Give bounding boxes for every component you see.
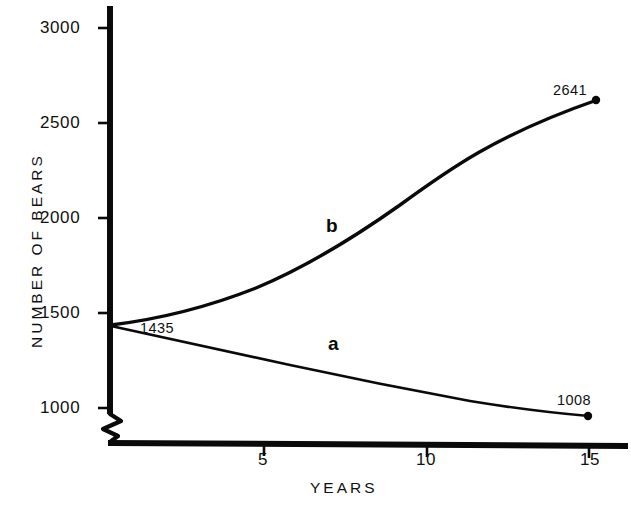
value-label-origin: 1435 (140, 320, 174, 336)
x-tick-label-10: 10 (416, 450, 436, 470)
x-axis-line (108, 443, 628, 446)
series-curve-a (111, 326, 589, 416)
bear-population-chart: 3000 2500 2000 1500 1000 5 10 15 NUMBER … (0, 0, 631, 508)
value-label-upper-end: 2641 (553, 82, 587, 98)
y-tick-label-2500: 2500 (40, 113, 80, 133)
y-tick-label-1500: 1500 (40, 303, 80, 323)
y-axis-title: NUMBER OF BEARS (28, 153, 46, 348)
curve-label-b: b (326, 215, 338, 237)
chart-plot-area (0, 0, 631, 508)
curve-label-a: a (328, 333, 339, 355)
x-axis-title: YEARS (310, 479, 378, 497)
axis-break-symbol (103, 414, 121, 442)
series-curve-b (111, 100, 597, 325)
x-tick-label-5: 5 (258, 450, 268, 470)
value-label-lower-end: 1008 (557, 392, 591, 408)
y-tick-label-1000: 1000 (40, 398, 80, 418)
x-tick-label-15: 15 (580, 450, 600, 470)
series-b-endpoint-marker (592, 96, 600, 104)
y-tick-label-2000: 2000 (40, 208, 80, 228)
series-a-endpoint-marker (584, 412, 592, 420)
y-tick-label-3000: 3000 (40, 18, 80, 38)
